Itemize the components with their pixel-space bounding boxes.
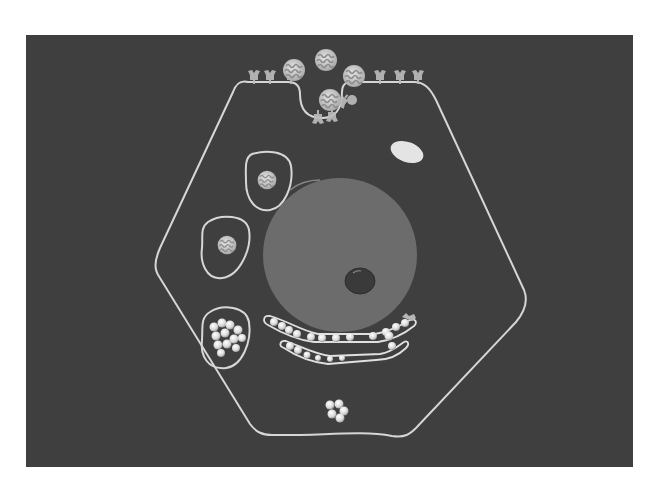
particle-cluster (326, 400, 349, 423)
nucleolus (345, 268, 375, 294)
endosome-lower (202, 217, 250, 278)
cell-diagram (0, 0, 652, 486)
nucleus (263, 178, 417, 332)
vesicle-bright (388, 137, 427, 167)
ligand-in-pit (319, 89, 341, 111)
ligands-extracellular (283, 49, 365, 87)
